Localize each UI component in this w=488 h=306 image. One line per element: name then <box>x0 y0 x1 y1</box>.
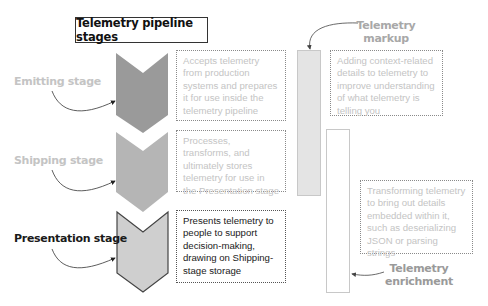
telemetry-markup-label: Telemetry markup <box>356 19 416 45</box>
shipping-stage-chevron <box>116 132 168 212</box>
emitting-stage-label: Emitting stage <box>14 75 101 88</box>
telemetry-enrichment-label-line2: enrichment <box>384 275 454 288</box>
presentation-stage-chevron <box>117 212 168 292</box>
enrichment-arrow <box>352 272 384 275</box>
telemetry-markup-bar <box>297 50 321 196</box>
telemetry-markup-label-line1: Telemetry <box>356 19 416 32</box>
telemetry-enrichment-label: Telemetry enrichment <box>384 262 454 288</box>
shipping-arrow <box>52 170 115 191</box>
telemetry-markup-label-line2: markup <box>356 32 416 45</box>
telemetry-enrichment-description: Transforming telemetry to bring out deta… <box>360 180 473 254</box>
telemetry-enrichment-label-line1: Telemetry <box>384 262 454 275</box>
shipping-stage-description: Processes, transforms, and ultimately st… <box>176 130 286 192</box>
emitting-stage-description: Accepts telemetry from production system… <box>176 50 286 121</box>
markup-arrow <box>310 23 358 49</box>
telemetry-enrichment-bar <box>326 129 350 293</box>
presentation-arrow <box>52 249 115 268</box>
presentation-stage-description: Presents telemetry to people to support … <box>176 210 286 283</box>
shipping-stage-label: Shipping stage <box>14 154 103 167</box>
diagram-title: Telemetry pipeline stages <box>75 17 208 43</box>
presentation-stage-label: Presentation stage <box>14 232 127 245</box>
emitting-stage-chevron <box>116 53 168 133</box>
telemetry-markup-description: Adding context-related details to teleme… <box>330 50 443 116</box>
emitting-arrow <box>52 91 115 111</box>
